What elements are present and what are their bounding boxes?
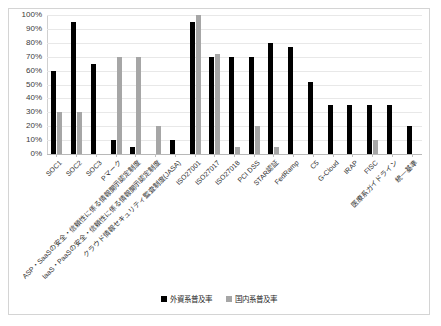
y-axis-tick-label: 100% bbox=[22, 11, 42, 19]
bar-group bbox=[288, 15, 299, 154]
x-axis-tick-label: SOC2 bbox=[65, 159, 84, 178]
bar-group bbox=[308, 15, 319, 154]
bar bbox=[255, 126, 260, 154]
y-axis: 100%90%80%70%60%50%40%30%20%10%0% bbox=[9, 15, 45, 155]
bar-group bbox=[170, 15, 181, 154]
bar-group bbox=[71, 15, 82, 154]
legend-item[interactable]: 国内系普及率 bbox=[226, 293, 277, 304]
y-axis-tick-label: 0% bbox=[30, 150, 42, 158]
x-axis-tick-label: G-Cloud bbox=[316, 159, 340, 183]
y-axis-tick-label: 80% bbox=[26, 39, 42, 47]
bar bbox=[209, 57, 214, 154]
bar bbox=[190, 22, 195, 154]
bar-group bbox=[190, 15, 201, 154]
plot-area bbox=[47, 15, 422, 155]
gray-square-marker bbox=[226, 296, 232, 302]
bar-group bbox=[130, 15, 141, 154]
bar bbox=[91, 64, 96, 154]
bar-group bbox=[328, 15, 339, 154]
bar bbox=[229, 57, 234, 154]
bar bbox=[57, 112, 62, 154]
y-axis-tick-label: 60% bbox=[26, 67, 42, 75]
bar bbox=[407, 126, 412, 154]
bar-group bbox=[407, 15, 418, 154]
bar-group bbox=[209, 15, 220, 154]
bar bbox=[215, 54, 220, 154]
bar bbox=[347, 105, 352, 154]
bar bbox=[387, 105, 392, 154]
bar-group bbox=[229, 15, 240, 154]
bar-group bbox=[268, 15, 279, 154]
bar bbox=[71, 22, 76, 154]
y-axis-tick-label: 30% bbox=[26, 108, 42, 116]
bar-group bbox=[347, 15, 358, 154]
bar-group bbox=[249, 15, 260, 154]
bar-group bbox=[367, 15, 378, 154]
y-axis-tick-label: 40% bbox=[26, 94, 42, 102]
bar bbox=[268, 43, 273, 154]
y-axis-tick-label: 90% bbox=[26, 25, 42, 33]
bar bbox=[111, 140, 116, 154]
bar bbox=[288, 47, 293, 154]
y-axis-tick-label: 20% bbox=[26, 122, 42, 130]
bar bbox=[130, 147, 135, 154]
legend-label: 国内系普及率 bbox=[235, 293, 277, 304]
bar bbox=[308, 82, 313, 154]
bar bbox=[77, 112, 82, 154]
bar-group bbox=[111, 15, 122, 154]
chart-frame: 100%90%80%70%60%50%40%30%20%10%0% SOC1SO… bbox=[8, 8, 430, 315]
bar-group bbox=[51, 15, 62, 154]
bar bbox=[136, 57, 141, 154]
x-axis-tick-label: FISC bbox=[363, 159, 380, 176]
black-square-marker bbox=[161, 296, 167, 302]
x-axis-labels: SOC1SOC2SOC3PマークASP・SaaSの安全・信頼性に係る情報開示認定… bbox=[47, 157, 422, 287]
bar bbox=[367, 105, 372, 154]
bar bbox=[235, 147, 240, 154]
bar bbox=[328, 105, 333, 154]
bar-group bbox=[91, 15, 102, 154]
bar bbox=[117, 57, 122, 154]
bar bbox=[249, 57, 254, 154]
bar bbox=[156, 126, 161, 154]
bar bbox=[170, 140, 175, 154]
chart-legend: 外資系普及率国内系普及率 bbox=[9, 293, 429, 304]
legend-label: 外資系普及率 bbox=[170, 293, 212, 304]
y-axis-tick-label: 50% bbox=[26, 81, 42, 89]
x-axis-tick-label: C5 bbox=[309, 159, 321, 171]
bar bbox=[196, 15, 201, 154]
y-axis-tick-label: 10% bbox=[26, 136, 42, 144]
legend-item[interactable]: 外資系普及率 bbox=[161, 293, 212, 304]
x-axis-tick-label: SOC1 bbox=[45, 159, 64, 178]
x-axis-tick-label: IRAP bbox=[343, 159, 360, 176]
bar-group bbox=[387, 15, 398, 154]
y-axis-tick-label: 70% bbox=[26, 53, 42, 61]
bar bbox=[274, 147, 279, 154]
bar bbox=[373, 140, 378, 154]
bar-group bbox=[150, 15, 161, 154]
bar bbox=[51, 71, 56, 154]
